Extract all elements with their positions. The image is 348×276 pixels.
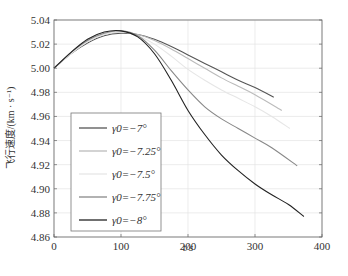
x-tick-label: 400 bbox=[314, 240, 331, 252]
y-tick-label: 4.86 bbox=[31, 231, 51, 243]
y-tick-label: 4.90 bbox=[31, 183, 51, 195]
legend-label: γ0=−7° bbox=[112, 122, 147, 134]
legend: γ0=−7°γ0=−7.25°γ0=−7.5°γ0=−7.75°γ0=−8° bbox=[71, 113, 161, 231]
legend-label: γ0=−7.5° bbox=[112, 168, 155, 180]
y-tick-label: 4.88 bbox=[31, 207, 51, 219]
x-tick-label: 100 bbox=[113, 240, 130, 252]
legend-label: γ0=−8° bbox=[112, 214, 147, 226]
y-tick-label: 4.98 bbox=[31, 86, 51, 98]
x-axis-label: t/s bbox=[183, 241, 193, 253]
x-tick-label: 0 bbox=[51, 240, 57, 252]
y-axis-label: 飞行速度/(km · s⁻¹) bbox=[4, 87, 17, 170]
y-tick-label: 5.02 bbox=[31, 38, 50, 50]
y-tick-label: 4.96 bbox=[31, 110, 51, 122]
y-tick-label: 4.94 bbox=[31, 135, 51, 147]
y-tick-label: 4.92 bbox=[31, 159, 50, 171]
x-tick-label: 300 bbox=[247, 240, 264, 252]
y-tick-label: 5.00 bbox=[31, 62, 51, 74]
legend-label: γ0=−7.75° bbox=[112, 191, 161, 203]
line-chart: 4.864.884.904.924.944.964.985.005.025.04… bbox=[0, 0, 348, 276]
y-tick-label: 5.04 bbox=[31, 14, 51, 26]
legend-label: γ0=−7.25° bbox=[112, 145, 161, 157]
